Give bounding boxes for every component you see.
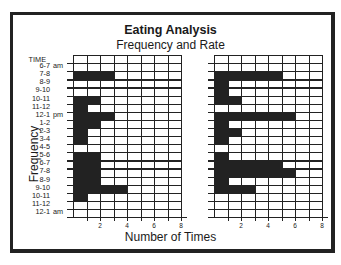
row-ampm-label: pm [53, 111, 63, 119]
x-axis-label: Number of Times [0, 230, 341, 244]
grid-line [67, 63, 181, 64]
x-tick [268, 217, 269, 221]
grid-line [214, 55, 322, 56]
chart-title: Eating Analysis [0, 23, 341, 37]
grid-line [208, 87, 322, 88]
grid-line [208, 96, 322, 97]
x-tick-label: 6 [288, 222, 302, 229]
grid-line [208, 177, 322, 178]
grid-line [67, 112, 181, 113]
x-tick [154, 217, 155, 221]
grid-line [208, 136, 322, 137]
grid-line [208, 152, 322, 153]
grid-line [208, 63, 322, 64]
grid-line [208, 160, 322, 161]
grid-line [67, 193, 181, 194]
grid-line [67, 128, 181, 129]
grid-line [208, 71, 322, 72]
grid-line [67, 177, 181, 178]
grid-line [67, 144, 181, 145]
x-tick [322, 217, 323, 221]
grid-line [67, 120, 181, 121]
row-ampm-label: am [53, 208, 63, 216]
grid-line [208, 185, 322, 186]
x-tick [168, 217, 169, 221]
x-tick-label: 4 [261, 222, 275, 229]
grid-line [208, 104, 322, 105]
x-tick-label: 2 [93, 222, 107, 229]
grid-line [67, 87, 181, 88]
x-tick [181, 217, 182, 221]
grid-line [67, 104, 181, 105]
grid-line [181, 55, 182, 217]
grid-line [208, 112, 322, 113]
x-tick [87, 217, 88, 221]
grid-line [67, 136, 181, 137]
grid-line [208, 193, 322, 194]
x-tick [228, 217, 229, 221]
grid-line [322, 55, 323, 217]
grid-line [73, 55, 181, 56]
x-tick [141, 217, 142, 221]
x-tick [255, 217, 256, 221]
x-tick [114, 217, 115, 221]
x-tick [282, 217, 283, 221]
grid-line [67, 185, 181, 186]
grid-line [67, 160, 181, 161]
x-tick-label: 4 [120, 222, 134, 229]
grid-line [67, 168, 181, 169]
grid-line [208, 120, 322, 121]
grid-line [67, 201, 181, 202]
grid-line [67, 209, 181, 210]
row-time-label: 12-1 [35, 208, 50, 216]
grid-line [208, 128, 322, 129]
row-ampm-label: am [53, 62, 63, 70]
grid-line [208, 144, 322, 145]
x-tick [127, 217, 128, 221]
grid-line [208, 209, 322, 210]
x-tick-label: 8 [315, 222, 329, 229]
x-tick [100, 217, 101, 221]
x-tick-label: 2 [234, 222, 248, 229]
chart-subtitle: Frequency and Rate [0, 38, 341, 52]
grid-line [67, 96, 181, 97]
grid-line [67, 79, 181, 80]
grid-line [67, 152, 181, 153]
x-tick [309, 217, 310, 221]
grid-line [208, 201, 322, 202]
x-tick [295, 217, 296, 221]
x-tick [241, 217, 242, 221]
x-tick-label: 6 [147, 222, 161, 229]
grid-line [208, 168, 322, 169]
grid-line [67, 71, 181, 72]
grid-line [208, 79, 322, 80]
x-tick-label: 8 [174, 222, 188, 229]
